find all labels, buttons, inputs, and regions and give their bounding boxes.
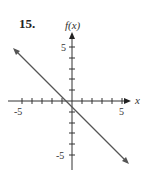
x-tick-label-neg5: -5 [14,106,22,117]
function-graph: -5 5 5 -5 f(x) x [0,0,149,180]
axes [8,37,126,170]
x-tick-label-5: 5 [119,106,124,117]
x-axis-label: x [134,94,140,106]
x-axis-arrow-icon [124,98,131,104]
y-tick-label-neg5: -5 [56,150,64,161]
y-axis-label: f(x) [65,19,81,32]
function-line [15,50,127,162]
y-axis-arrow-icon [69,32,75,39]
y-tick-label-5: 5 [61,42,66,53]
